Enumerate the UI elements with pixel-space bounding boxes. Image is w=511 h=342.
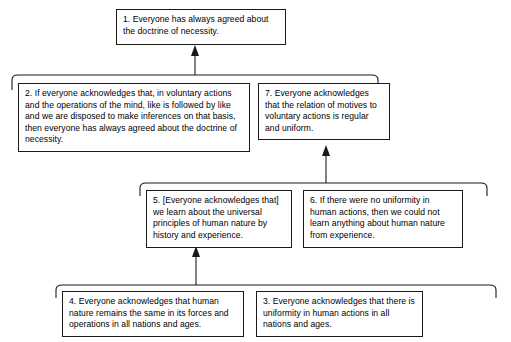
argument-diagram: 1. Everyone has always agreed about the … (0, 0, 511, 342)
node-7[interactable]: 7. Everyone acknowledges that the relati… (258, 83, 390, 140)
node-4-text: 4. Everyone acknowledges that human natu… (69, 296, 238, 331)
node-3[interactable]: 3. Everyone acknowledges that there is u… (256, 291, 423, 337)
node-1-text: 1. Everyone has always agreed about the … (123, 14, 280, 37)
arrow-head-to-node-7 (322, 145, 330, 156)
node-1[interactable]: 1. Everyone has always agreed about the … (116, 9, 286, 45)
arrow-head-to-node-1 (191, 45, 199, 56)
node-2[interactable]: 2. If everyone acknowledges that, in vol… (18, 83, 250, 152)
node-3-text: 3. Everyone acknowledges that there is u… (263, 296, 417, 331)
node-4[interactable]: 4. Everyone acknowledges that human natu… (62, 291, 244, 337)
node-5[interactable]: 5. [Everyone acknowledges that] we learn… (146, 190, 292, 248)
node-5-text: 5. [Everyone acknowledges that] we learn… (153, 195, 286, 241)
node-2-text: 2. If everyone acknowledges that, in vol… (25, 88, 244, 146)
node-6-text: 6. If there were no uniformity in human … (310, 195, 457, 241)
node-7-text: 7. Everyone acknowledges that the relati… (265, 88, 384, 134)
node-6[interactable]: 6. If there were no uniformity in human … (303, 190, 463, 248)
